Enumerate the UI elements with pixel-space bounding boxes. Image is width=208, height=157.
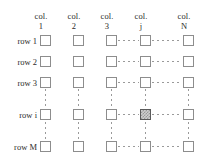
ellipsis-horizontal-row1-b bbox=[152, 40, 182, 41]
grid-cell-r1-c2[interactable] bbox=[73, 35, 84, 46]
grid-cell-rM-cj[interactable] bbox=[140, 141, 151, 152]
ellipsis-horizontal-rowi-b bbox=[152, 114, 182, 115]
grid-cell-r2-c1[interactable] bbox=[40, 56, 51, 67]
ellipsis-vertical-col2-b bbox=[78, 122, 79, 140]
ellipsis-horizontal-row2-a bbox=[118, 61, 139, 62]
column-header-N: col. N bbox=[164, 12, 204, 31]
grid-cell-rM-cN[interactable] bbox=[183, 141, 194, 152]
ellipsis-vertical-col3-a bbox=[111, 89, 112, 108]
ellipsis-horizontal-row3-a bbox=[118, 82, 139, 83]
ellipsis-horizontal-rowi-a bbox=[118, 114, 139, 115]
grid-cell-rM-c3[interactable] bbox=[106, 141, 117, 152]
grid-cell-r3-c1[interactable] bbox=[40, 77, 51, 88]
grid-cell-rM-c1[interactable] bbox=[40, 141, 51, 152]
grid-cell-r2-cj[interactable] bbox=[140, 56, 151, 67]
column-header-index: N bbox=[164, 22, 204, 32]
row-header-1: row 1 bbox=[1, 36, 37, 46]
ellipsis-vertical-colj-a bbox=[145, 89, 146, 108]
grid-cell-r2-cN[interactable] bbox=[183, 56, 194, 67]
grid-cell-r3-cN[interactable] bbox=[183, 77, 194, 88]
ellipsis-vertical-colj-b bbox=[145, 122, 146, 140]
grid-cell-r1-c1[interactable] bbox=[40, 35, 51, 46]
row-header-3: row 3 bbox=[1, 78, 37, 88]
grid-cell-r1-c3[interactable] bbox=[106, 35, 117, 46]
grid-cell-ri-cN[interactable] bbox=[183, 109, 194, 120]
ellipsis-vertical-col1-a bbox=[45, 89, 46, 108]
grid-cell-r2-c2[interactable] bbox=[73, 56, 84, 67]
matrix-grid-figure: col. 1 col. 2 col. 3 col. j col. N row 1… bbox=[0, 0, 208, 157]
row-header-2: row 2 bbox=[1, 57, 37, 67]
ellipsis-horizontal-row1-a bbox=[118, 40, 139, 41]
ellipsis-vertical-colN-a bbox=[188, 89, 189, 108]
ellipsis-vertical-col3-b bbox=[111, 122, 112, 140]
column-header-j: col. j bbox=[121, 12, 161, 31]
ellipsis-vertical-colN-b bbox=[188, 122, 189, 140]
grid-cell-r3-c3[interactable] bbox=[106, 77, 117, 88]
row-header-M: row M bbox=[1, 142, 37, 152]
ellipsis-horizontal-row2-b bbox=[152, 61, 182, 62]
column-header-index: j bbox=[121, 22, 161, 32]
ellipsis-vertical-col1-b bbox=[45, 122, 46, 140]
grid-cell-r2-c3[interactable] bbox=[106, 56, 117, 67]
grid-cell-r1-cj[interactable] bbox=[140, 35, 151, 46]
grid-cell-ri-c3[interactable] bbox=[106, 109, 117, 120]
grid-cell-r3-cj[interactable] bbox=[140, 77, 151, 88]
ellipsis-horizontal-row3-b bbox=[152, 82, 182, 83]
grid-cell-ri-cj-highlighted[interactable] bbox=[140, 109, 151, 120]
ellipsis-vertical-col2-a bbox=[78, 89, 79, 108]
grid-cell-r1-cN[interactable] bbox=[183, 35, 194, 46]
grid-cell-ri-c1[interactable] bbox=[40, 109, 51, 120]
grid-cell-rM-c2[interactable] bbox=[73, 141, 84, 152]
ellipsis-horizontal-rowM-a bbox=[118, 146, 139, 147]
ellipsis-horizontal-rowM-b bbox=[152, 146, 182, 147]
row-header-i: row i bbox=[1, 110, 37, 120]
grid-cell-r3-c2[interactable] bbox=[73, 77, 84, 88]
grid-cell-ri-c2[interactable] bbox=[73, 109, 84, 120]
